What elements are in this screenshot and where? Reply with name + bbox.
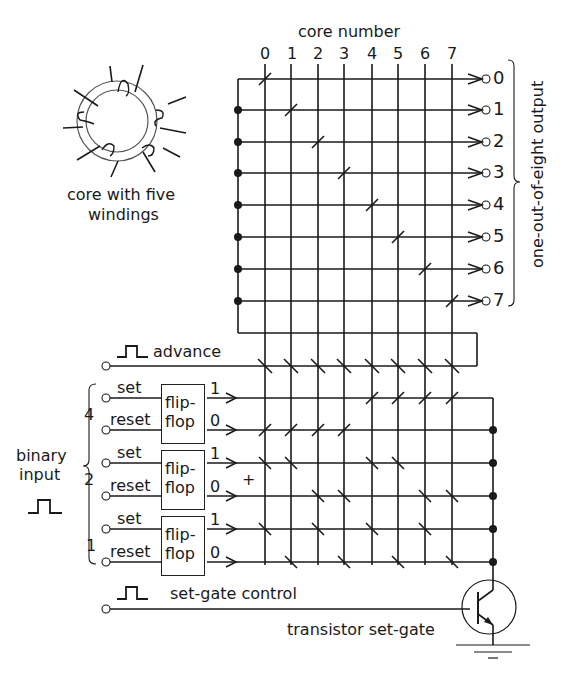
reset-label-1: reset	[110, 544, 151, 560]
advance-label: advance	[153, 344, 221, 360]
junction-dots	[234, 106, 497, 566]
flipflop-1: flip- flop	[161, 516, 205, 576]
core-caption-line1: core with five	[67, 187, 175, 203]
set-label-4: set	[117, 380, 141, 396]
core-column-4: 4	[367, 46, 377, 62]
ff4-out-1: 1	[210, 381, 220, 397]
core-column-2: 2	[313, 46, 323, 62]
core-column-7: 7	[447, 46, 457, 62]
output-terminals	[482, 75, 490, 305]
set-label-1: set	[117, 511, 141, 527]
output-arrows	[468, 74, 482, 306]
core-column-lines	[265, 64, 452, 565]
output-2: 2	[493, 133, 504, 149]
output-5: 5	[493, 228, 504, 244]
flipflop-4: flip- flop	[161, 384, 205, 444]
output-winding-marks	[259, 73, 458, 307]
toroid-core-icon	[63, 65, 186, 177]
flipflop-4-line1: flip-	[165, 393, 204, 412]
core-column-1: 1	[287, 46, 297, 62]
ff2-out-0: 0	[210, 479, 220, 495]
bit-4-label: 4	[84, 407, 94, 423]
reset-label-2: reset	[110, 478, 151, 494]
plus-sign: +	[242, 472, 255, 488]
output-7: 7	[493, 292, 504, 308]
output-6: 6	[493, 260, 504, 276]
core-column-6: 6	[420, 46, 430, 62]
bit-2-label: 2	[84, 472, 94, 488]
set-label-2: set	[117, 445, 141, 461]
bit-1-label: 1	[86, 538, 96, 554]
output-4: 4	[493, 196, 504, 212]
output-label: one-out-of-eight output	[530, 88, 546, 268]
transistor-label: transistor set-gate	[287, 622, 435, 638]
flipflop-1-line1: flip-	[165, 525, 204, 544]
transistor-icon	[456, 580, 530, 658]
binary-label-line2: input	[19, 467, 60, 483]
core-column-5: 5	[393, 46, 403, 62]
output-3: 3	[493, 164, 504, 180]
output-0: 0	[493, 70, 504, 86]
input-terminals	[102, 394, 110, 566]
ff4-out-0: 0	[210, 413, 220, 429]
flipflop-4-line2: flop	[165, 412, 204, 431]
reset-label-4: reset	[110, 412, 151, 428]
flipflop-output-arrows	[226, 393, 236, 567]
decoder-schematic	[0, 0, 567, 681]
core-caption-line2: windings	[88, 207, 159, 223]
core-column-3: 3	[339, 46, 349, 62]
flipflop-2: flip- flop	[161, 450, 205, 510]
flipflop-1-line2: flop	[165, 544, 204, 563]
setgate-control-label: set-gate control	[170, 586, 297, 602]
binary-label-line1: binary	[16, 448, 67, 464]
core-number-header: core number	[298, 24, 400, 40]
ff1-out-1: 1	[210, 512, 220, 528]
ff1-out-0: 0	[210, 545, 220, 561]
flipflop-2-line2: flop	[165, 478, 204, 497]
ff2-out-1: 1	[210, 446, 220, 462]
core-column-0: 0	[260, 46, 270, 62]
output-1: 1	[493, 101, 504, 117]
flipflop-2-line1: flip-	[165, 459, 204, 478]
output-rows	[238, 79, 482, 301]
